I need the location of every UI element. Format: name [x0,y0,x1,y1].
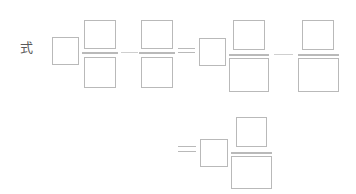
equals-sign-r1-1 [178,48,195,53]
answer-cell-r1-frac4-denominator[interactable] [298,58,339,92]
answer-cell-r1-frac2-denominator[interactable] [141,57,173,88]
answer-cell-r1-frac4-numerator[interactable] [302,20,334,50]
answer-cell-r1-frac1-denominator[interactable] [84,57,116,88]
answer-cell-r1-frac2-numerator[interactable] [141,20,173,49]
fraction-bar-r1-frac4 [298,54,339,56]
fraction-bar-r1-frac1 [82,52,118,54]
fraction-bar-r1-frac2 [139,52,175,54]
fraction-bar-r1-frac3 [229,54,269,56]
fraction-bar-r2-frac1 [231,152,272,154]
answer-cell-r1-frac3-denominator[interactable] [229,58,269,92]
answer-cell-r1-frac1-numerator[interactable] [84,20,116,49]
formula-label: 式 [20,41,33,54]
answer-cell-r2-term1[interactable] [200,139,228,167]
connector-dash-r1-1 [121,52,138,53]
answer-cell-r2-frac1-denominator[interactable] [231,156,272,189]
answer-cell-r2-frac1-numerator[interactable] [236,117,267,147]
answer-cell-r1-frac3-numerator[interactable] [233,20,265,50]
equals-sign-r2-1 [178,146,196,152]
equation-canvas: 式 [0,0,356,194]
answer-cell-r1-term2[interactable] [199,38,226,66]
connector-dash-r1-2 [274,54,293,55]
answer-cell-r1-term1[interactable] [52,37,79,65]
